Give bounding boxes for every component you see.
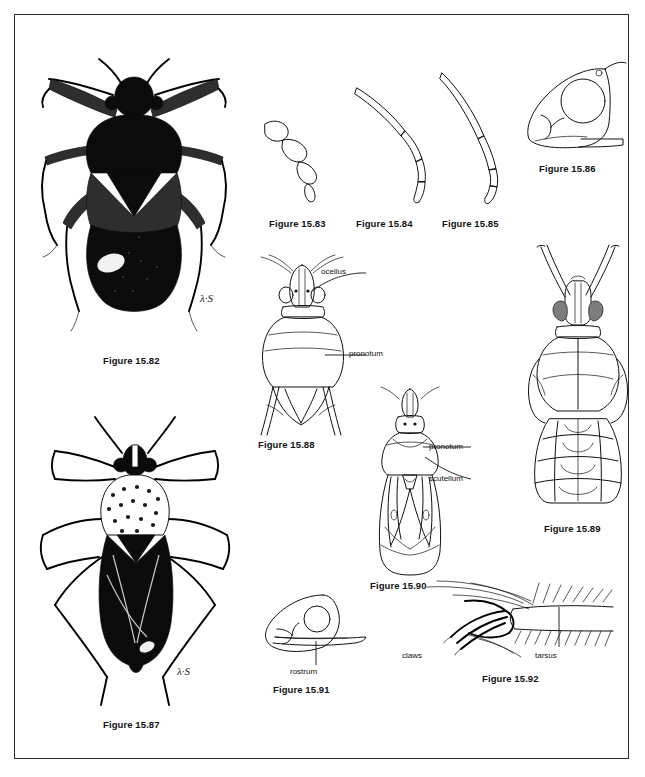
- figure-15-85: [440, 70, 512, 205]
- caption-figure-15-82: Figure 15.82: [103, 355, 160, 366]
- figure-15-84-drawing: [353, 83, 433, 205]
- figure-15-89: [513, 243, 643, 515]
- figure-15-87: [29, 415, 241, 715]
- figure-15-92-drawing: [413, 581, 613, 671]
- eye: [304, 606, 330, 632]
- figure-15-86: [517, 57, 627, 157]
- caption-figure-15-89: Figure 15.89: [544, 523, 601, 534]
- figure-15-91-leader: [309, 641, 323, 669]
- figure-15-85-drawing: [440, 70, 512, 205]
- figure-15-89-drawing: [513, 243, 643, 515]
- figure-15-87-drawing: [29, 415, 241, 715]
- figure-15-84: [353, 83, 433, 205]
- caption-figure-15-88: Figure 15.88: [258, 439, 315, 450]
- artist-signature-15-82: λ·S: [200, 292, 213, 304]
- label-claws-15-92: claws: [402, 651, 422, 660]
- caption-figure-15-84: Figure 15.84: [356, 218, 413, 229]
- eye: [561, 79, 605, 123]
- figure-15-83-drawing: [263, 110, 335, 205]
- label-pronotum-15-88: pronotum: [349, 349, 383, 358]
- label-rostrum-15-91: rostrum: [290, 667, 317, 676]
- caption-figure-15-92: Figure 15.92: [482, 673, 539, 684]
- ocellus: [596, 70, 602, 76]
- caption-figure-15-91: Figure 15.91: [273, 684, 330, 695]
- caption-figure-15-83: Figure 15.83: [269, 218, 326, 229]
- label-tarsus-15-92: tarsus: [535, 651, 557, 660]
- ocellus-left: [294, 289, 297, 292]
- figure-15-86-drawing: [517, 57, 627, 157]
- figure-15-92: [413, 581, 613, 671]
- caption-figure-15-86: Figure 15.86: [539, 163, 596, 174]
- label-scutellum-15-90: scutellum: [429, 474, 463, 483]
- figure-plate: λ·S Figure 15.82 Figure 15.83 Figure 15.…: [14, 14, 629, 759]
- label-pronotum-15-90: pronotum: [429, 442, 463, 451]
- caption-figure-15-87: Figure 15.87: [103, 719, 160, 730]
- caption-figure-15-85: Figure 15.85: [442, 218, 499, 229]
- artist-signature-15-87: λ·S: [177, 665, 190, 677]
- figure-15-83: [263, 110, 335, 205]
- label-ocellus-15-88: ocellus: [321, 267, 346, 276]
